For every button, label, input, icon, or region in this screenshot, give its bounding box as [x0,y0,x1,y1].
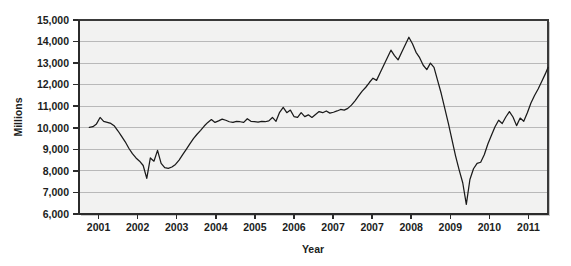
chart-container: 15,00014,00013,00012,00011,00010,0009,00… [0,0,571,266]
x-tick-label: 2011 [517,221,540,233]
x-tick-label: 2010 [478,221,502,233]
y-axis-ticks [73,20,79,214]
y-axis-title: Millions [12,97,24,136]
x-axis-tick-labels: 2001200220032004200520062007200720082009… [87,221,540,233]
x-tick-label: 2007 [360,221,384,233]
y-axis-tick-labels: 15,00014,00013,00012,00011,00010,0009,00… [37,14,69,220]
y-tick-label: 15,000 [37,14,69,26]
x-tick-label: 2002 [126,221,150,233]
x-tick-label: 2005 [243,221,267,233]
x-tick-label: 2007 [321,221,345,233]
y-tick-label: 7,000 [43,186,69,198]
plot-background [79,20,548,214]
y-tick-label: 11,000 [37,100,69,112]
x-tick-label: 2006 [282,221,306,233]
y-tick-label: 13,000 [37,57,69,69]
y-tick-label: 12,000 [37,78,69,90]
y-tick-label: 8,000 [43,165,69,177]
x-axis-title: Year [302,243,324,255]
x-tick-label: 2003 [165,221,189,233]
x-tick-label: 2001 [87,221,111,233]
line-chart: 15,00014,00013,00012,00011,00010,0009,00… [0,0,571,266]
x-tick-label: 2009 [439,221,463,233]
y-tick-label: 14,000 [37,35,69,47]
y-tick-label: 10,000 [37,122,69,134]
y-tick-label: 6,000 [43,208,69,220]
x-tick-label: 2008 [400,221,424,233]
y-tick-label: 9,000 [43,143,69,155]
x-tick-label: 2004 [204,221,228,233]
